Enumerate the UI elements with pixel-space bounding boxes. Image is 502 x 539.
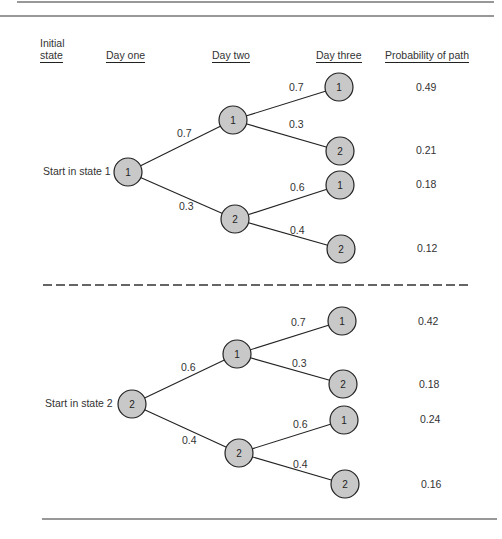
node-label: 2 [342, 479, 348, 490]
node-label: 2 [236, 448, 242, 459]
header-day-three: Day three [316, 49, 362, 63]
path-prob: 0.16 [421, 478, 441, 490]
header-probability-of-path: Probability of path [385, 49, 469, 63]
header-initial-line2: state [40, 49, 63, 63]
edge-prob: 0.4 [290, 224, 305, 236]
node-label: 2 [337, 146, 343, 157]
node-label: 1 [125, 167, 131, 178]
edge-prob: 0.6 [293, 418, 308, 430]
header-day-one: Day one [106, 49, 145, 63]
node-label: 1 [341, 415, 347, 426]
path-prob: 0.18 [419, 378, 439, 390]
path-prob: 0.21 [416, 144, 436, 156]
node-label: 2 [340, 379, 346, 390]
path-prob: 0.18 [416, 178, 436, 190]
edge-prob: 0.3 [179, 200, 194, 212]
node-label: 1 [336, 82, 342, 93]
header-initial-state: Initial state [40, 37, 65, 61]
node-label: 2 [129, 399, 135, 410]
node-label: 1 [234, 349, 240, 360]
edge-prob: 0.7 [289, 81, 304, 93]
start-label-state-1: Start in state 1 [43, 165, 111, 177]
node-label: 1 [339, 316, 345, 327]
edge-prob: 0.4 [182, 434, 197, 446]
header-initial-line1: Initial [40, 37, 65, 49]
edge-prob: 0.6 [181, 361, 196, 373]
tree1-nodes [114, 73, 355, 263]
edge-prob: 0.7 [177, 127, 192, 139]
edge-prob: 0.3 [289, 118, 304, 130]
edge-prob: 0.6 [290, 181, 305, 193]
edge-prob: 0.3 [292, 357, 307, 369]
node-label: 1 [230, 115, 236, 126]
node-label: 2 [232, 214, 238, 225]
tree2-nodes [118, 307, 359, 498]
header-day-two: Day two [212, 49, 250, 63]
node-label: 2 [338, 244, 344, 255]
edge-prob: 0.7 [291, 316, 306, 328]
node-label: 1 [337, 180, 343, 191]
path-prob: 0.12 [417, 242, 437, 254]
start-label-state-2: Start in state 2 [45, 397, 113, 409]
edge-prob: 0.4 [293, 458, 308, 470]
path-prob: 0.24 [420, 413, 440, 425]
path-prob: 0.42 [418, 315, 438, 327]
path-prob: 0.49 [416, 81, 436, 93]
